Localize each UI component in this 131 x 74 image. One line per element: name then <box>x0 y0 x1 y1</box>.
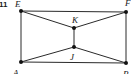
segment-ek <box>21 11 74 28</box>
segment-fk <box>74 12 126 28</box>
point-f <box>124 10 128 14</box>
exercise-number: 11 <box>0 0 8 9</box>
point-j <box>72 45 76 49</box>
segment-ba <box>21 62 126 63</box>
label-f: F <box>124 0 131 8</box>
point-k <box>72 26 76 30</box>
point-b <box>124 61 128 65</box>
segment-bj <box>74 47 126 63</box>
geometry-figure: 11 E F K J A B <box>0 0 131 74</box>
segment-aj <box>21 47 74 62</box>
label-j: J <box>70 52 75 62</box>
point-a <box>19 60 23 64</box>
segment-ef <box>21 11 126 12</box>
label-e: E <box>14 0 21 9</box>
label-b: B <box>123 69 129 74</box>
label-k: K <box>71 15 79 25</box>
point-e <box>19 9 23 13</box>
label-a: A <box>12 68 19 74</box>
